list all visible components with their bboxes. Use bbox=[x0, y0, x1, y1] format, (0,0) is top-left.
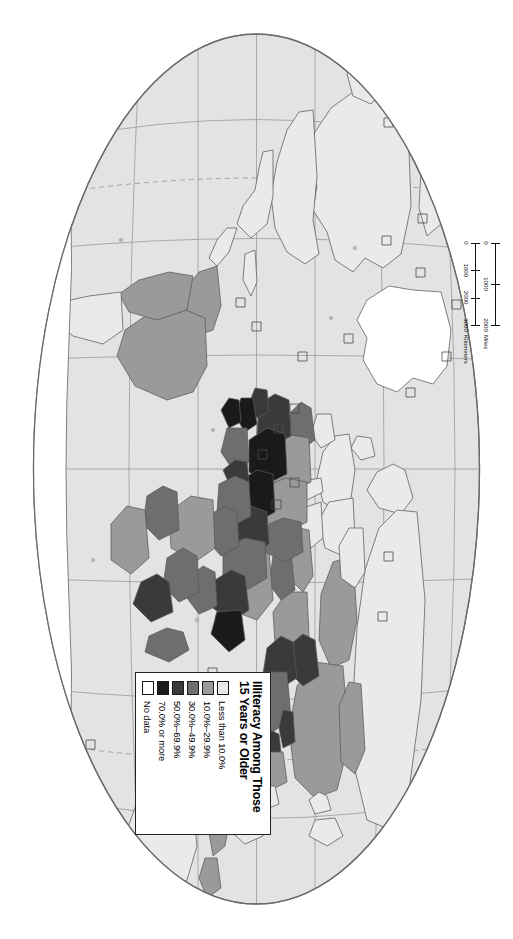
legend-item-label: 50.0%–69.9% bbox=[172, 701, 183, 758]
map-scale-bar: 0 1000 2000 Miles 0 1000 2000 3000 Kilom… bbox=[464, 243, 500, 361]
map-legend: Illiteracy Among Those 15 Years or Older… bbox=[135, 672, 271, 835]
scale-miles-tick-2: 2000 bbox=[483, 318, 490, 332]
legend-title: Illiteracy Among Those 15 Years or Older bbox=[236, 681, 263, 826]
scale-kilometers: 0 1000 2000 3000 Kilometers bbox=[464, 243, 480, 361]
country-mongolia bbox=[339, 682, 365, 774]
legend-swatch-icon bbox=[202, 681, 215, 695]
legend-item: No data bbox=[140, 681, 155, 826]
scale-km-tick-3: 3000 bbox=[463, 318, 470, 332]
country-new-zealand bbox=[109, 898, 143, 920]
map-figure: Illiteracy Among Those 15 Years or Older… bbox=[0, 0, 513, 939]
legend-item-label: 30.0%–49.9% bbox=[187, 701, 198, 758]
scale-km-tick-1: 1000 bbox=[463, 264, 470, 278]
scale-miles: 0 1000 2000 Miles bbox=[484, 243, 500, 361]
legend-item-label: No data bbox=[142, 701, 153, 733]
legend-item-label: Less than 10.0% bbox=[217, 701, 228, 769]
legend-title-line1: Illiteracy Among Those bbox=[250, 681, 263, 826]
scale-km-tick-2: 2000 bbox=[463, 291, 470, 305]
legend-swatch-icon bbox=[187, 681, 200, 695]
legend-item: 10.0%–29.9% bbox=[200, 681, 215, 826]
legend-item: 50.0%–69.9% bbox=[170, 681, 185, 826]
legend-swatch-icon bbox=[142, 681, 155, 695]
legend-item: Less than 10.0% bbox=[215, 681, 230, 826]
country-antarctica bbox=[33, 34, 72, 904]
legend-item-label: 10.0%–29.9% bbox=[202, 701, 213, 758]
legend-item-label: 70.0% or more bbox=[157, 701, 168, 761]
scale-miles-tick-0: 0 bbox=[483, 241, 490, 244]
legend-item: 70.0% or more bbox=[155, 681, 170, 826]
legend-item: 30.0%–49.9% bbox=[185, 681, 200, 826]
scale-km-tick-0: 0 bbox=[463, 241, 470, 244]
canadian-arctic-isles bbox=[419, 140, 447, 236]
scale-miles-tick-1: 1000 bbox=[483, 277, 490, 291]
scale-miles-unit: Miles bbox=[483, 335, 490, 349]
legend-entries: Less than 10.0% 10.0%–29.9% 30.0%–49.9% … bbox=[140, 681, 230, 826]
legend-swatch-icon bbox=[172, 681, 185, 695]
legend-swatch-icon bbox=[217, 681, 230, 695]
scale-km-unit: Kilometers bbox=[463, 335, 470, 364]
legend-title-line2: 15 Years or Older bbox=[236, 681, 249, 826]
legend-swatch-icon bbox=[157, 681, 170, 695]
